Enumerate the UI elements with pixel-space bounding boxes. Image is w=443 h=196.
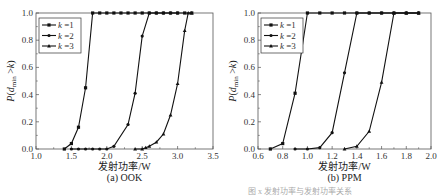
x-tick-label: 2.0 xyxy=(425,151,437,161)
marker-circle xyxy=(91,147,94,150)
y-tick-label: 0.6 xyxy=(244,62,256,72)
marker-circle xyxy=(318,146,321,149)
y-axis-label: P(dmin >k) xyxy=(227,60,240,102)
marker-square xyxy=(343,11,346,14)
x-tick-label: 0.8 xyxy=(277,151,289,161)
marker-square xyxy=(84,86,87,89)
marker-triangle xyxy=(169,113,173,116)
marker-square xyxy=(331,11,334,14)
marker-square xyxy=(119,11,122,14)
subplot-caption: (a) OOK xyxy=(107,172,143,184)
marker-circle xyxy=(126,123,129,126)
marker-circle xyxy=(77,147,80,150)
marker-square xyxy=(77,126,80,129)
figure: 1.01.52.02.53.03.50.00.20.40.60.81.0发射功率… xyxy=(0,0,443,196)
marker-circle xyxy=(162,11,165,14)
y-tick-label: 0.8 xyxy=(22,35,34,45)
y-tick-label: 0.0 xyxy=(22,144,34,154)
y-tick-label: 1.0 xyxy=(244,8,256,18)
marker-circle xyxy=(98,147,101,150)
legend: k =1k =2k =3 xyxy=(261,18,303,53)
marker-triangle xyxy=(162,132,166,135)
marker-square xyxy=(91,11,94,14)
legend-entry: k =2 xyxy=(280,31,296,41)
series-line xyxy=(71,13,177,149)
marker-circle xyxy=(343,71,346,74)
marker-circle xyxy=(269,34,272,37)
y-axis-label: P(dmin >k) xyxy=(5,60,18,102)
marker-square xyxy=(306,11,309,14)
marker-square xyxy=(293,92,296,95)
marker-circle xyxy=(306,147,309,150)
x-tick-label: 3.0 xyxy=(172,151,184,161)
series-k=3 xyxy=(133,11,193,150)
marker-circle xyxy=(105,147,108,150)
marker-circle xyxy=(331,131,334,134)
marker-square xyxy=(63,147,66,150)
marker-circle xyxy=(293,147,296,150)
chart-ppm: 0.60.81.01.21.41.61.82.00.00.20.40.60.81… xyxy=(227,8,437,184)
y-tick-label: 1.0 xyxy=(22,8,34,18)
x-axis-label: 发射功率/W xyxy=(98,160,151,172)
y-tick-label: 0.0 xyxy=(244,144,256,154)
marker-circle xyxy=(176,11,179,14)
marker-square xyxy=(281,142,284,145)
series-k=2 xyxy=(293,11,420,150)
marker-square xyxy=(269,147,272,150)
y-tick-label: 0.2 xyxy=(244,117,255,127)
marker-triangle xyxy=(380,80,384,83)
chart-ook: 1.01.52.02.53.03.50.00.20.40.60.81.0发射功率… xyxy=(5,8,219,184)
x-axis-label: 发射功率/W xyxy=(318,160,371,172)
x-tick-label: 1.0 xyxy=(302,151,314,161)
legend-entry: k =2 xyxy=(58,31,74,41)
marker-square xyxy=(318,11,321,14)
marker-triangle xyxy=(367,129,371,132)
series-k=1 xyxy=(63,11,194,150)
marker-triangle xyxy=(176,82,180,85)
series-line xyxy=(295,13,419,149)
marker-square xyxy=(47,23,50,26)
y-tick-label: 0.4 xyxy=(244,90,256,100)
marker-square xyxy=(98,11,101,14)
marker-square xyxy=(134,11,137,14)
figure-caption: 图 x 发射功率与发射功率关系 xyxy=(248,186,352,196)
marker-square xyxy=(126,11,129,14)
x-tick-label: 2.5 xyxy=(137,151,149,161)
marker-circle xyxy=(355,11,358,14)
marker-circle xyxy=(380,11,383,14)
series-line xyxy=(64,13,191,149)
marker-triangle xyxy=(183,29,187,32)
marker-circle xyxy=(112,145,115,148)
y-tick-label: 0.4 xyxy=(22,90,34,100)
x-tick-label: 1.2 xyxy=(327,151,338,161)
marker-circle xyxy=(70,147,73,150)
x-tick-label: 2.0 xyxy=(101,151,113,161)
marker-circle xyxy=(148,11,151,14)
legend-entry: k =3 xyxy=(58,41,74,51)
marker-circle xyxy=(169,11,172,14)
y-tick-label: 0.2 xyxy=(22,117,33,127)
legend: k =1k =2k =3 xyxy=(39,18,81,53)
marker-square xyxy=(70,142,73,145)
y-tick-label: 0.6 xyxy=(22,62,34,72)
marker-circle xyxy=(368,11,371,14)
x-tick-label: 1.6 xyxy=(376,151,388,161)
y-tick-label: 0.8 xyxy=(244,35,256,45)
marker-circle xyxy=(134,92,137,95)
legend-entry: k =1 xyxy=(280,20,296,30)
marker-square xyxy=(112,11,115,14)
series-line xyxy=(135,13,192,149)
legend-entry: k =1 xyxy=(58,20,74,30)
marker-square xyxy=(269,23,272,26)
marker-circle xyxy=(155,11,158,14)
legend-entry: k =3 xyxy=(280,41,296,51)
subplot-caption: (b) PPM xyxy=(327,172,361,184)
marker-square xyxy=(105,11,108,14)
x-tick-label: 1.5 xyxy=(66,151,78,161)
marker-circle xyxy=(141,35,144,38)
x-tick-label: 1.8 xyxy=(401,151,413,161)
x-tick-label: 3.5 xyxy=(207,151,219,161)
marker-square xyxy=(141,11,144,14)
marker-square xyxy=(183,11,186,14)
marker-circle xyxy=(47,34,50,37)
